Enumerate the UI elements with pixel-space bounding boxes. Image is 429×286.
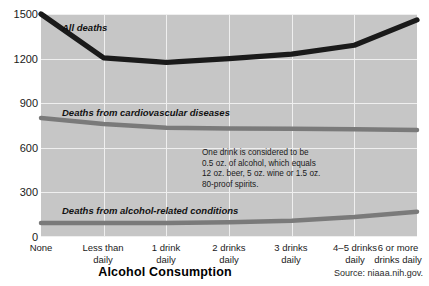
- source-attribution: Source: niaaa.nih.gov.: [334, 268, 423, 278]
- y-tick-600: 600: [0, 143, 38, 154]
- x-tick-less-than-daily-line1: Less than: [76, 242, 130, 254]
- x-tick-2-drinks-daily: 2 drinks daily: [202, 242, 256, 265]
- x-axis-title: Alcohol Consumption: [0, 265, 330, 279]
- x-tick-none: None: [14, 242, 68, 254]
- series-label-alcohol-related: Deaths from alcohol-related conditions: [62, 205, 238, 216]
- x-tick-2-drinks-daily-line2: daily: [202, 254, 256, 266]
- x-tick-1-drink-daily-line2: daily: [139, 254, 193, 266]
- x-tick-3-drinks-daily-line2: daily: [264, 254, 318, 266]
- x-tick-3-drinks-daily-line1: 3 drinks: [264, 242, 318, 254]
- x-tick-6-or-more-drinks-daily: 6 or more drinks daily: [367, 242, 429, 265]
- annotation-line-1: One drink is considered to be: [202, 148, 320, 159]
- x-tick-1-drink-daily-line1: 1 drink: [139, 242, 193, 254]
- x-tick-3-drinks-daily: 3 drinks daily: [264, 242, 318, 265]
- series-label-all-deaths: All deaths: [62, 22, 107, 33]
- series-lines: [41, 14, 417, 237]
- x-tick-less-than-daily: Less than daily: [76, 242, 130, 265]
- y-axis-tick-labels: 1500 1200 900 600 300 0: [0, 14, 38, 237]
- annotation-line-4: 80-proof spirits.: [202, 180, 320, 191]
- annotation-line-2: 0.5 oz. of alcohol, which equals: [202, 159, 320, 170]
- line-cardiovascular: [41, 118, 417, 130]
- y-tick-900: 900: [0, 98, 38, 109]
- x-tick-2-drinks-daily-line1: 2 drinks: [202, 242, 256, 254]
- plot-area: All deaths Deaths from cardiovascular di…: [41, 14, 417, 237]
- alcohol-mortality-chart: 1500 1200 900 600 300 0 All deaths Death…: [0, 0, 429, 286]
- y-tick-300: 300: [0, 187, 38, 198]
- x-tick-6-or-more-drinks-daily-line1: 6 or more: [367, 242, 429, 254]
- annotation-line-3: 12 oz. beer, 5 oz. wine or 1.5 oz.: [202, 169, 320, 180]
- series-label-cardiovascular: Deaths from cardiovascular diseases: [62, 107, 230, 118]
- x-tick-none-line1: None: [14, 242, 68, 254]
- x-tick-6-or-more-drinks-daily-line2: drinks daily: [367, 254, 429, 266]
- y-tick-1200: 1200: [0, 54, 38, 65]
- y-tick-1500: 1500: [0, 9, 38, 20]
- x-tick-less-than-daily-line2: daily: [76, 254, 130, 266]
- x-tick-1-drink-daily: 1 drink daily: [139, 242, 193, 265]
- drink-definition-annotation: One drink is considered to be 0.5 oz. of…: [202, 148, 320, 190]
